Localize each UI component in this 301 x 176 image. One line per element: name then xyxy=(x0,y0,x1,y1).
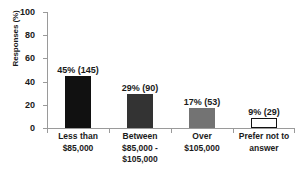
plot-area: 0 20 40 60 80 100 45% (145) xyxy=(47,12,295,128)
bars-layer: 45% (145) 29% (90) 17% (53) 9% (29) xyxy=(47,12,295,128)
category-label-line: $105,000 xyxy=(109,154,171,166)
category-axis-labels: Less than $85,000 Between $85,000 - $105… xyxy=(47,131,295,176)
bar-label-less-than-85000: 45% (145) xyxy=(57,65,99,75)
bar-between-85000-105000[interactable]: 29% (90) xyxy=(127,94,153,128)
y-tick-label-80: 80 xyxy=(25,30,35,40)
category-label-over-105000: Over $105,000 xyxy=(171,131,233,154)
bar-over-105000[interactable]: 17% (53) xyxy=(189,108,215,128)
category-label-less-than-85000: Less than $85,000 xyxy=(47,131,109,154)
bar-label-prefer-not-to-answer: 9% (29) xyxy=(248,107,280,117)
category-label-line: $85,000 xyxy=(47,143,109,155)
y-tick-label-40: 40 xyxy=(25,77,35,87)
bar-label-between-85000-105000: 29% (90) xyxy=(122,83,159,93)
y-tick-label-100: 100 xyxy=(20,7,35,17)
y-tick-label-20: 20 xyxy=(25,100,35,110)
y-tick-label-0: 0 xyxy=(30,123,35,133)
category-label-line: $105,000 xyxy=(171,143,233,155)
bar-prefer-not-to-answer[interactable]: 9% (29) xyxy=(251,118,277,128)
category-label-between-85000-105000: Between $85,000 - $105,000 xyxy=(109,131,171,166)
category-label-prefer-not-to-answer: Prefer not to answer xyxy=(233,131,295,154)
category-label-line: answer xyxy=(233,143,295,155)
category-label-line: $85,000 - xyxy=(109,143,171,155)
category-label-line: Less than xyxy=(47,131,109,143)
y-tick-label-60: 60 xyxy=(25,53,35,63)
category-label-line: Between xyxy=(109,131,171,143)
bar-chart: Responses (%) 0 20 40 60 80 100 xyxy=(0,0,301,176)
y-axis-title: Responses (%) xyxy=(11,0,20,87)
bar-less-than-85000[interactable]: 45% (145) xyxy=(65,76,91,128)
category-label-line: Prefer not to xyxy=(233,131,295,143)
bar-label-over-105000: 17% (53) xyxy=(184,97,221,107)
category-label-line: Over xyxy=(171,131,233,143)
